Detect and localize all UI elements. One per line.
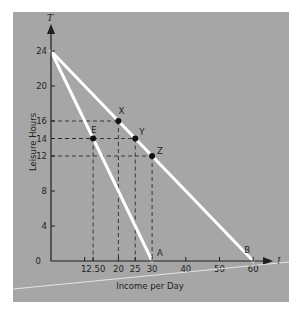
x-tick-label: 25 [130,264,141,274]
budget-line-end-label: A [157,248,163,258]
data-point [149,153,155,159]
data-point [90,136,96,142]
y-tick-label: 0 [36,256,41,266]
x-tick-label: 20 [113,264,124,274]
data-point [115,118,121,124]
y-tick-label: 4 [42,221,47,231]
x-axis-title: Income per Day [116,281,184,291]
y-tick-label: 24 [36,46,47,56]
data-point-label: Z [157,146,163,156]
ticks: 048121416202412.50202530405060 [36,46,259,274]
y-axis-symbol: T [47,13,54,23]
budget-line-end-label: B [244,245,250,255]
x-tick-label: 12.50 [81,264,105,274]
x-tick-label: 30 [147,264,158,274]
leisure-income-chart: AB T I 048121416202412.50202530405060 EX… [0,0,299,316]
x-axis-symbol: I [276,256,281,266]
axes: T I [47,13,281,266]
data-point-label: Y [138,127,145,137]
data-point-label: X [118,106,124,116]
y-tick-label: 8 [42,186,47,196]
data-points: EXYZ [90,106,163,159]
y-axis-title: Leisure Hours [28,112,38,171]
data-point [132,136,138,142]
y-axis-arrow-icon [47,24,55,34]
data-point-label: E [91,125,96,135]
y-tick-label: 20 [36,81,47,91]
